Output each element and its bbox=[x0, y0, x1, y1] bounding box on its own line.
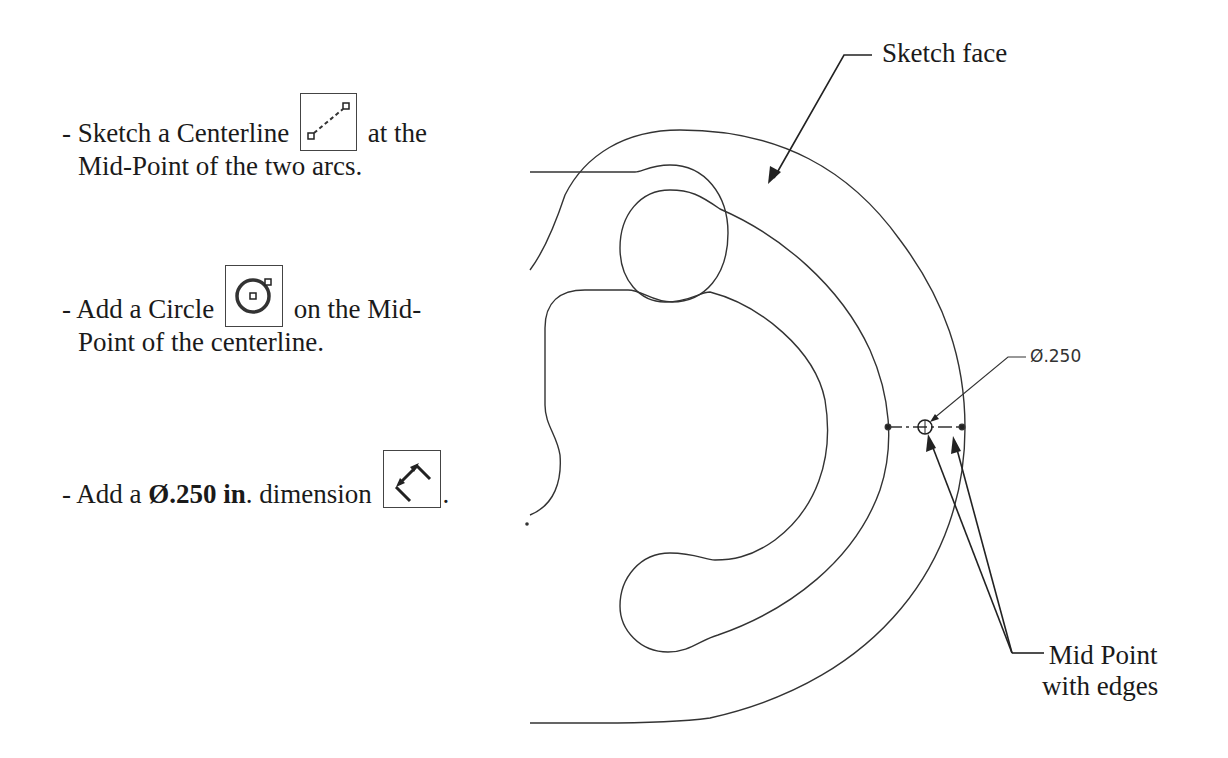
midpoint-left bbox=[885, 424, 891, 430]
centerline-tool-icon bbox=[300, 93, 357, 151]
midpoint-label-line2: with edges bbox=[1042, 671, 1158, 702]
sketch-face-leader bbox=[774, 55, 872, 178]
sketch-face-label: Sketch face bbox=[882, 38, 1007, 69]
step3-bold-dimension: Ø.250 in bbox=[148, 479, 246, 509]
dimension-leader bbox=[933, 357, 1026, 419]
step1-text: - Sketch a Centerline bbox=[62, 118, 289, 148]
left-profile-edge bbox=[530, 165, 728, 515]
step1-suffix: at the bbox=[368, 118, 427, 148]
step3-suffix: . bbox=[443, 479, 450, 509]
dimension-label: Ø.250 bbox=[1030, 346, 1081, 366]
midpoint-label-line1: Mid Point bbox=[1048, 640, 1158, 671]
step3-middle: . dimension bbox=[246, 479, 372, 509]
instruction-step-1: - Sketch a Centerline at the Mid-Point o… bbox=[62, 93, 427, 182]
step2-line2: Point of the centerline. bbox=[62, 327, 421, 358]
inner-slot-edge bbox=[620, 190, 889, 652]
midpoint-right bbox=[959, 424, 965, 430]
step1-line2: Mid-Point of the two arcs. bbox=[62, 151, 427, 182]
instruction-step-2: - Add a Circle on the Mid- Point of the … bbox=[62, 265, 421, 358]
instruction-step-3: - Add a Ø.250 in. dimension . bbox=[62, 450, 449, 510]
step3-prefix: - Add a bbox=[62, 479, 148, 509]
smart-dimension-tool-icon bbox=[383, 450, 441, 508]
circle-tool-icon bbox=[225, 265, 283, 327]
midpoint-label: Mid Point with edges bbox=[1048, 640, 1158, 702]
step2-suffix: on the Mid- bbox=[294, 294, 422, 324]
step2-text: - Add a Circle bbox=[62, 294, 214, 324]
